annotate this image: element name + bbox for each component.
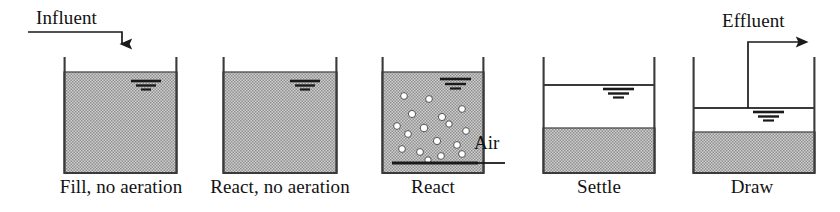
draw-sludge-blanket — [693, 132, 815, 173]
influent-label: Influent — [36, 8, 97, 27]
influent-arrow — [28, 32, 122, 44]
effluent-label: Effluent — [722, 11, 785, 30]
stage-label-react: React — [383, 177, 483, 196]
stage-label-react-no-aeration: React, no aeration — [180, 177, 380, 196]
settle-sludge-blanket — [543, 128, 655, 173]
stage-label-draw: Draw — [702, 177, 802, 196]
stage-fill-tank — [64, 58, 177, 173]
sbr-cycle-figure: Influent Effluent Air Fill, no aeration … — [0, 0, 840, 212]
air-label: Air — [474, 133, 499, 152]
stage-draw-tank — [693, 58, 815, 173]
stage-react-no-aeration-tank — [223, 58, 337, 173]
stage-settle-tank — [543, 58, 655, 173]
effluent-arrow — [748, 42, 806, 108]
stage-react-tank — [382, 58, 505, 173]
stage-label-settle: Settle — [549, 177, 649, 196]
react-na-mixed-liquor-body — [223, 72, 337, 173]
fill-mixed-liquor-body — [64, 72, 177, 173]
